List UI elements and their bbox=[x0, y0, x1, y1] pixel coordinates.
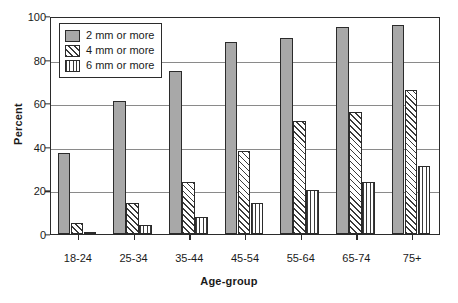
y-axis-tick-label: 40 bbox=[0, 142, 46, 153]
bar-group bbox=[225, 18, 264, 234]
legend-swatch-icon bbox=[65, 60, 80, 72]
x-axis-tick-mark bbox=[412, 235, 413, 240]
y-axis-tick-label: 0 bbox=[0, 230, 46, 241]
x-axis-tick-mark bbox=[301, 235, 302, 240]
bar bbox=[126, 203, 139, 234]
bar bbox=[306, 190, 319, 234]
bar bbox=[195, 217, 208, 234]
bar-group bbox=[336, 18, 375, 234]
x-axis-tick-label: 65-74 bbox=[342, 252, 370, 264]
legend-item: 4 mm or more bbox=[65, 43, 154, 58]
legend-item: 6 mm or more bbox=[65, 58, 154, 73]
bar-group bbox=[169, 18, 208, 234]
bar bbox=[84, 232, 97, 234]
bar bbox=[293, 121, 306, 234]
y-axis-tick-label: 20 bbox=[0, 186, 46, 197]
x-axis-tick-label: 45-54 bbox=[231, 252, 259, 264]
bar bbox=[225, 42, 238, 234]
x-axis-tick-label: 25-34 bbox=[119, 252, 147, 264]
bar bbox=[182, 182, 195, 234]
legend-item: 2 mm or more bbox=[65, 28, 154, 43]
bar bbox=[405, 90, 418, 234]
legend-swatch-icon bbox=[65, 30, 80, 42]
bar bbox=[238, 151, 251, 234]
legend-label: 6 mm or more bbox=[86, 60, 154, 71]
bar bbox=[392, 25, 405, 234]
x-axis-title: Age-group bbox=[0, 275, 458, 287]
legend-label: 2 mm or more bbox=[86, 30, 154, 41]
x-axis-tick-label: 35-44 bbox=[175, 252, 203, 264]
x-axis-tick-mark bbox=[189, 235, 190, 240]
bar bbox=[280, 38, 293, 234]
bar bbox=[139, 225, 152, 234]
bar bbox=[418, 166, 431, 234]
x-axis-tick-label: 18-24 bbox=[64, 252, 92, 264]
legend-swatch-icon bbox=[65, 45, 80, 57]
x-axis-tick-mark bbox=[78, 235, 79, 240]
bar bbox=[349, 112, 362, 234]
bar bbox=[336, 27, 349, 234]
chart-legend: 2 mm or more4 mm or more6 mm or more bbox=[59, 23, 162, 78]
bar bbox=[169, 71, 182, 235]
y-axis-tick-label: 100 bbox=[0, 12, 46, 23]
x-axis-tick-label: 55-64 bbox=[287, 252, 315, 264]
bar bbox=[362, 182, 375, 234]
x-axis-tick-mark bbox=[356, 235, 357, 240]
bar-group bbox=[392, 18, 431, 234]
bar bbox=[58, 153, 71, 234]
y-axis-tick-label: 60 bbox=[0, 99, 46, 110]
x-axis-tick-mark bbox=[245, 235, 246, 240]
x-axis-tick-label: 75+ bbox=[403, 252, 422, 264]
bar bbox=[71, 223, 84, 234]
bar-group bbox=[280, 18, 319, 234]
x-axis-tick-mark bbox=[134, 235, 135, 240]
bar bbox=[113, 101, 126, 234]
bar bbox=[251, 203, 264, 234]
bar-chart: Percent 020406080100 18-2425-3435-4445-5… bbox=[0, 0, 458, 303]
legend-label: 4 mm or more bbox=[86, 45, 154, 56]
y-axis-tick-label: 80 bbox=[0, 55, 46, 66]
